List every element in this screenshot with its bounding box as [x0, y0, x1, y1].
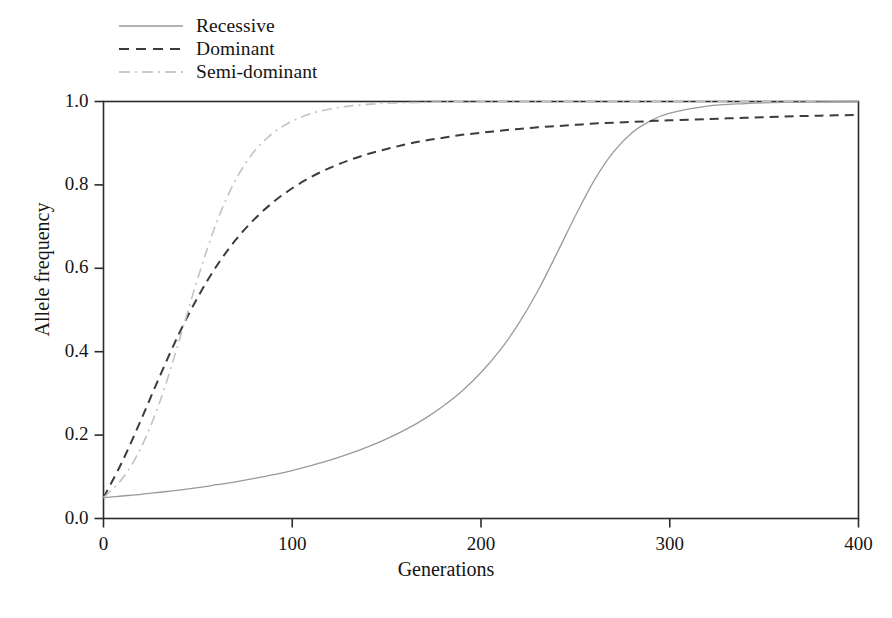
x-tick-label: 200 — [451, 533, 511, 555]
x-tick-label: 300 — [640, 533, 700, 555]
series-line-dominant — [104, 115, 859, 498]
plot-area: 0.00.20.40.60.81.0 0100200300400 Allele … — [0, 0, 892, 618]
x-tick-label: 0 — [74, 533, 134, 555]
series-line-semi-dominant — [104, 101, 821, 497]
y-tick-label: 0.2 — [33, 423, 89, 445]
y-tick-label: 0.0 — [33, 507, 89, 529]
x-tick-label: 400 — [829, 533, 889, 555]
y-axis-ticks — [95, 102, 104, 519]
x-axis-ticks — [104, 519, 859, 528]
x-tick-label: 100 — [262, 533, 322, 555]
y-axis-title: Allele frequency — [31, 170, 54, 370]
series-line-recessive — [104, 102, 859, 498]
axes-frame — [104, 102, 859, 519]
y-tick-label: 1.0 — [33, 90, 89, 112]
data-series-layer — [104, 101, 859, 497]
x-axis-title: Generations — [0, 558, 892, 581]
allele-frequency-chart-figure: Recessive Dominant Semi-dominant — [0, 0, 892, 618]
plot-canvas — [0, 0, 892, 618]
